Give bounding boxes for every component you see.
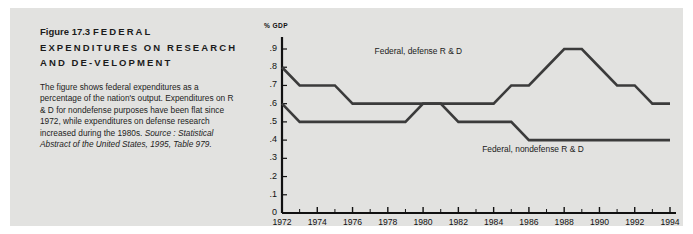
chart: % GDP .9.8.7.6.5.4.3.2.10197219741976197…: [256, 22, 681, 222]
x-tick-label: 1992: [620, 217, 650, 227]
x-tick-label: 1980: [408, 217, 438, 227]
x-tick-label: 1978: [373, 217, 403, 227]
series-label: Federal, defense R & D: [375, 46, 463, 56]
x-tick-label: 1994: [655, 217, 685, 227]
caption-column: Figure 17.3 FEDERAL EXPENDITURES ON RESE…: [40, 24, 240, 151]
chart-plot-svg: [256, 22, 681, 222]
figure-caption: The figure shows federal expenditures as…: [40, 82, 240, 152]
y-tick-label: .5: [260, 116, 277, 126]
y-tick-label: .4: [260, 134, 277, 144]
y-tick-label: .9: [260, 43, 277, 53]
x-tick-label: 1976: [338, 217, 368, 227]
y-tick-label: .7: [260, 79, 277, 89]
series-label: Federal, nondefense R & D: [482, 144, 584, 154]
x-tick-label: 1982: [443, 217, 473, 227]
x-tick-label: 1988: [549, 217, 579, 227]
x-tick-label: 1984: [479, 217, 509, 227]
y-tick-label: .1: [260, 189, 277, 199]
figure-panel: Figure 17.3 FEDERAL EXPENDITURES ON RESE…: [10, 8, 683, 226]
y-tick-label: .2: [260, 171, 277, 181]
y-tick-label: .6: [260, 98, 277, 108]
y-tick-label: .3: [260, 152, 277, 162]
x-tick-label: 1974: [302, 217, 332, 227]
x-tick-label: 1986: [514, 217, 544, 227]
y-tick-label: 0: [260, 207, 277, 217]
x-tick-label: 1990: [584, 217, 614, 227]
x-tick-label: 1972: [267, 217, 297, 227]
figure-number: Figure 17.3: [40, 26, 90, 37]
figure-title: Figure 17.3 FEDERAL EXPENDITURES ON RESE…: [40, 24, 240, 71]
y-tick-label: .8: [260, 61, 277, 71]
caption-source-label: Source :: [145, 128, 176, 138]
